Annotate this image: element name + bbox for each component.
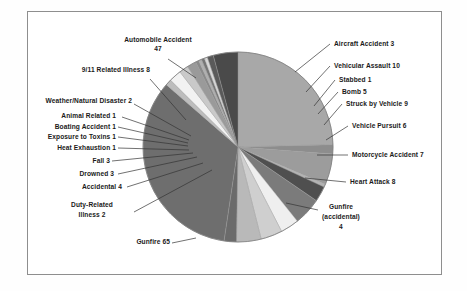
label-fall: Fall 3	[50, 157, 110, 165]
label-boating-accident: Boating Accident 1	[18, 123, 116, 131]
label-duty-related-illness-line2: Illness 2	[52, 211, 132, 219]
label-weather-natural-disaster: Weather/Natural Disaster 2	[10, 97, 132, 105]
label-bomb: Bomb 5	[342, 88, 442, 96]
label-911-related-illness: 9/11 Related Illness 8	[30, 66, 150, 74]
label-aircraft-accident: Aircraft Accident 3	[334, 40, 454, 48]
label-gunfire-accidental-line2: (accidental)	[306, 213, 376, 221]
label-exposure-to-toxins: Exposure to Toxins 1	[8, 133, 116, 141]
label-gunfire: Gunfire 65	[110, 238, 170, 246]
label-animal-related: Animal Related 1	[26, 112, 116, 120]
label-struck-by-vehicle: Struck by Vehicle 9	[346, 100, 462, 108]
pie-slice-automobile-accident[interactable]	[238, 52, 333, 147]
label-vehicular-assault: Vehicular Assault 10	[334, 62, 458, 70]
leader-aircraft-accident	[295, 44, 330, 72]
label-vehicle-pursuit: Vehicle Pursuit 6	[352, 122, 462, 130]
label-accidental: Accidental 4	[30, 183, 122, 191]
label-heart-attack: Heart Attack 8	[350, 178, 450, 186]
label-stabbed: Stabbed 1	[339, 76, 439, 84]
label-automobile-accident: Automobile Accident	[98, 36, 218, 44]
leader-gunfire	[172, 238, 196, 243]
label-heat-exhaustion: Heat Exhaustion 1	[14, 144, 116, 152]
label-motorcycle-accident: Motorcycle Accident 7	[352, 151, 467, 159]
leader-stabbed	[314, 80, 335, 106]
label-gunfire-accidental-line3: 4	[306, 223, 376, 231]
label-gunfire-accidental-line1: Gunfire	[306, 203, 376, 211]
leader-vehicular-assault	[306, 66, 330, 92]
pie-slices-group	[143, 52, 333, 242]
label-drowned: Drowned 3	[32, 170, 114, 178]
chart-root: Automobile Accident 47 9/11 Related Illn…	[0, 0, 467, 291]
label-automobile-accident-value: 47	[128, 45, 188, 53]
label-duty-related-illness-line1: Duty-Related	[52, 201, 132, 209]
